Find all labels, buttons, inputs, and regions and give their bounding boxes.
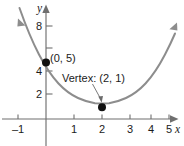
y-tick-label-4: 4	[36, 66, 42, 77]
x-tick-label-4: 4	[148, 124, 154, 135]
parabola-curve	[20, 8, 176, 104]
y-tick-label-2: 2	[36, 89, 42, 100]
x-axis-ticks	[18, 115, 169, 120]
y-axis-arrow-icon	[42, 5, 49, 14]
x-axis-label: x	[175, 124, 180, 136]
point-y-intercept	[42, 59, 50, 67]
x-tick-label-2: 2	[99, 124, 105, 135]
x-tick-label--1: –1	[12, 124, 24, 135]
y-axis-label: y	[37, 3, 42, 15]
curve-right-arrow-icon	[169, 23, 177, 31]
x-tick-label-1: 1	[71, 124, 77, 135]
x-axis-arrow-icon	[170, 115, 179, 122]
x-tick-label-3: 3	[127, 124, 133, 135]
x-tick-label-5: 5	[166, 124, 172, 135]
point-vertex	[98, 103, 106, 111]
vertex-annotation: Vertex: (2, 1)	[62, 73, 125, 84]
vertex-leader-arrow-icon	[98, 96, 103, 103]
parabola-figure: –1 1 2 3 4 5 8 4 2 x y (0, 5) Vertex: (2…	[0, 0, 184, 146]
y-tick-label-8: 8	[36, 21, 42, 32]
y-intercept-annotation: (0, 5)	[50, 53, 76, 64]
